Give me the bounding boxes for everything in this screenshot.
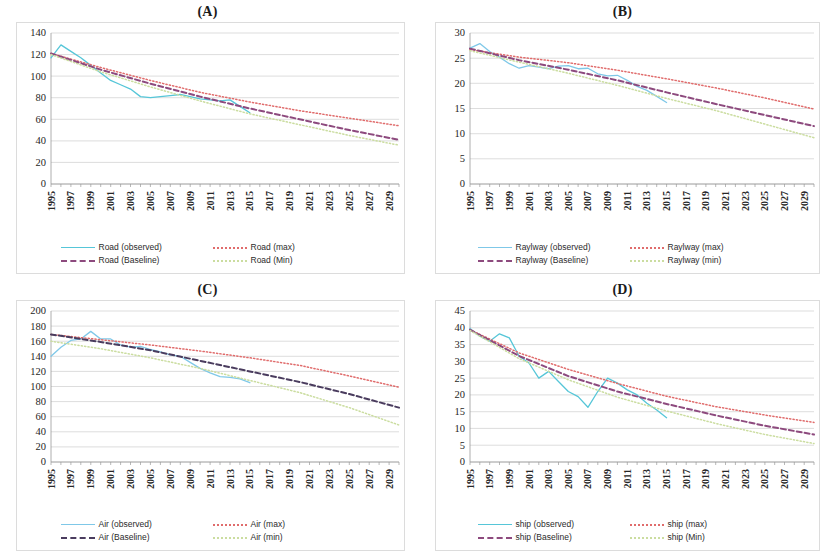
legend-item: Air (observed) [61,519,213,530]
series-line [51,45,250,113]
series-line [51,331,250,382]
svg-text:2005: 2005 [563,191,574,211]
svg-text:2019: 2019 [284,191,295,211]
series-line [470,330,814,443]
svg-text:120: 120 [30,49,46,60]
svg-text:2019: 2019 [700,191,711,211]
legend-label: Raylway (Baseline) [516,255,589,266]
svg-text:2009: 2009 [185,191,196,211]
legend-label: Road (observed) [99,242,162,253]
svg-text:20: 20 [455,78,466,89]
legend-label: Road (max) [251,242,295,253]
svg-text:2003: 2003 [125,469,136,489]
svg-text:2025: 2025 [344,191,355,211]
legend-item: Air (Baseline) [61,532,213,543]
svg-text:20: 20 [36,157,47,168]
svg-text:20: 20 [455,389,466,400]
svg-text:2013: 2013 [225,469,236,489]
legend-swatch-solid-icon [478,243,512,253]
svg-text:2003: 2003 [543,191,554,211]
svg-text:120: 120 [30,366,46,377]
svg-text:60: 60 [36,114,47,125]
legend-item: ship (max) [630,519,778,530]
legend-swatch-dotted-icon [213,256,247,266]
svg-text:1999: 1999 [85,191,96,211]
panel-b: (B) 051015202530199519971999200120032005… [415,0,830,278]
panel-c-title: (C) [0,278,415,301]
panel-a-title: (A) [0,0,415,23]
svg-text:2011: 2011 [205,191,216,210]
series-line [51,341,399,425]
series-line [470,330,814,423]
svg-text:15: 15 [455,406,466,417]
svg-text:1995: 1995 [46,191,57,211]
svg-text:60: 60 [36,411,47,422]
legend-item: Raylway (Baseline) [478,255,630,266]
svg-text:25: 25 [455,373,466,384]
svg-text:2021: 2021 [304,469,315,489]
legend-label: Air (max) [251,519,285,530]
svg-text:2021: 2021 [720,191,731,211]
svg-text:45: 45 [455,305,466,316]
svg-text:2007: 2007 [165,191,176,211]
svg-text:2027: 2027 [779,469,790,489]
svg-text:1999: 1999 [504,191,515,211]
svg-text:2023: 2023 [324,469,335,489]
legend-label: ship (Baseline) [516,532,572,543]
svg-text:2023: 2023 [740,191,751,211]
series-line [470,330,814,435]
svg-text:0: 0 [41,456,46,467]
svg-text:2005: 2005 [563,469,574,489]
svg-text:2011: 2011 [205,469,216,488]
svg-text:2027: 2027 [364,469,375,489]
series-line [470,44,667,103]
legend-swatch-dotted-icon [213,520,247,530]
legend-item: Raylway (observed) [478,242,630,253]
legend-label: ship (max) [668,519,708,530]
panel-d-legend: ship (observed)ship (max)ship (Baseline)… [436,518,819,544]
svg-text:2029: 2029 [799,469,810,489]
legend-swatch-dotted-icon [213,533,247,543]
legend-swatch-solid-icon [61,520,95,530]
panel-a: (A) 020406080100120140199519971999200120… [0,0,415,278]
svg-text:100: 100 [30,381,46,392]
legend-swatch-dotted-icon [630,533,664,543]
svg-text:1995: 1995 [465,191,476,211]
svg-text:2023: 2023 [740,469,751,489]
legend-swatch-dashed-icon [478,533,512,543]
panel-a-legend: Road (observed)Road (max)Road (Baseline)… [17,241,404,267]
svg-text:2009: 2009 [185,469,196,489]
legend-item: Air (min) [213,532,361,543]
panel-d-chart: 0510152025303540451995199719992001200320… [435,300,820,551]
svg-text:30: 30 [455,356,466,367]
svg-text:2013: 2013 [225,191,236,211]
panel-b-plot-area: 0510152025301995199719992001200320052007… [436,25,819,273]
svg-text:200: 200 [30,305,46,316]
svg-text:35: 35 [455,339,466,350]
svg-text:2011: 2011 [622,469,633,488]
series-line [51,334,399,407]
svg-text:2015: 2015 [661,469,672,489]
legend-label: Air (min) [251,532,283,543]
series-line [470,49,814,127]
svg-text:40: 40 [36,135,47,146]
legend-swatch-solid-icon [478,520,512,530]
svg-text:15: 15 [455,103,466,114]
svg-text:2003: 2003 [543,469,554,489]
svg-text:80: 80 [36,396,47,407]
svg-text:30: 30 [455,27,466,38]
svg-text:2017: 2017 [264,469,275,489]
svg-text:2001: 2001 [524,469,535,489]
legend-label: Air (observed) [99,519,152,530]
svg-text:2027: 2027 [779,191,790,211]
svg-text:2021: 2021 [304,191,315,211]
legend-label: ship (Min) [668,532,705,543]
svg-text:2013: 2013 [641,469,652,489]
svg-text:1999: 1999 [504,469,515,489]
svg-text:2013: 2013 [641,191,652,211]
panel-d: (D) 051015202530354045199519971999200120… [415,278,830,555]
panel-a-svg: 0204060801001201401995199719992001200320… [17,25,405,230]
svg-text:2017: 2017 [681,469,692,489]
svg-text:0: 0 [460,178,465,189]
panel-b-svg: 0510152025301995199719992001200320052007… [436,25,820,230]
